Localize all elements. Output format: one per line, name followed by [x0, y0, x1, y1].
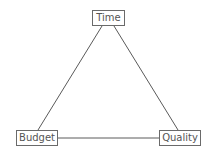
- edge-time-quality: [114, 26, 178, 130]
- node-budget: Budget: [16, 130, 58, 146]
- edge-time-budget: [38, 26, 102, 130]
- node-time: Time: [92, 10, 125, 26]
- node-quality: Quality: [159, 130, 201, 146]
